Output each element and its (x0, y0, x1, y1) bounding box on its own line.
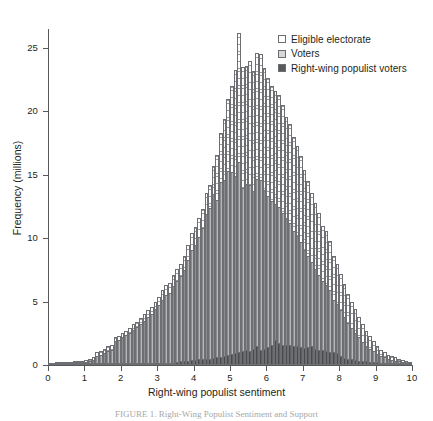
x-tick-label: 4 (182, 372, 206, 383)
x-tick (303, 366, 304, 371)
light-grey-square-icon (278, 50, 286, 58)
legend-label: Right-wing populist voters (291, 63, 407, 74)
x-tick (376, 366, 377, 371)
y-tick-label: 10 (12, 232, 38, 243)
histogram-bar (408, 29, 412, 365)
x-tick (412, 366, 413, 371)
x-axis-title: Right-wing populist sentiment (0, 386, 433, 398)
x-tick-label: 1 (72, 372, 96, 383)
y-tick-label: 15 (12, 169, 38, 180)
x-tick (194, 366, 195, 371)
x-tick-label: 2 (109, 372, 133, 383)
x-tick (339, 366, 340, 371)
legend-item-voters: Voters (278, 47, 407, 62)
x-tick (84, 366, 85, 371)
x-tick (230, 366, 231, 371)
x-tick-label: 9 (364, 372, 388, 383)
x-tick-label: 10 (400, 372, 424, 383)
x-tick-label: 3 (145, 372, 169, 383)
x-tick (266, 366, 267, 371)
x-tick-label: 7 (291, 372, 315, 383)
bar-segment (408, 363, 412, 365)
y-tick-label: 20 (12, 105, 38, 116)
figure-caption: FIGURE 1. Right-Wing Populist Sentiment … (0, 409, 433, 421)
legend-item-eligible-electorate: Eligible electorate (278, 32, 407, 47)
x-tick-label: 6 (254, 372, 278, 383)
y-tick-label: 0 (12, 359, 38, 370)
x-tick-label: 0 (36, 372, 60, 383)
y-axis-title: Frequency (millions) (11, 108, 23, 268)
chart-legend: Eligible electorate Voters Right-wing po… (278, 32, 407, 76)
x-tick-label: 5 (218, 372, 242, 383)
legend-item-right-wing-populist-voters: Right-wing populist voters (278, 61, 407, 76)
y-tick-label: 5 (12, 296, 38, 307)
hatched-white-square-icon (278, 35, 286, 43)
x-tick (121, 366, 122, 371)
y-tick-label: 25 (12, 42, 38, 53)
legend-label: Eligible electorate (291, 34, 371, 45)
plot-area (48, 29, 412, 365)
x-tick (157, 366, 158, 371)
legend-label: Voters (291, 48, 320, 59)
figure-container: Frequency (millions) 0510152025 01234567… (0, 0, 433, 421)
x-tick (48, 366, 49, 371)
dark-grey-square-icon (278, 64, 286, 72)
x-tick-label: 8 (327, 372, 351, 383)
